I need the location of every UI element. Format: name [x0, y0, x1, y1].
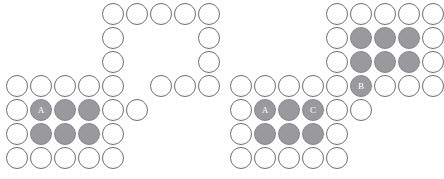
grid-cell-filled[interactable]: [374, 27, 396, 49]
grid-cell-empty[interactable]: [54, 147, 76, 169]
grid-cell-empty[interactable]: [102, 147, 124, 169]
grid-cell-empty[interactable]: [102, 3, 124, 25]
cell-label: A: [262, 106, 269, 115]
grid-cell-filled[interactable]: [254, 123, 276, 145]
grid-cell-b[interactable]: B: [350, 75, 372, 97]
grid-cell-empty[interactable]: [350, 99, 372, 121]
grid-cell-empty[interactable]: [326, 75, 348, 97]
grid-cell-empty[interactable]: [102, 27, 124, 49]
grid-cell-empty[interactable]: [54, 75, 76, 97]
grid-cell-empty[interactable]: [230, 99, 252, 121]
cell-label: B: [358, 82, 364, 91]
grid-cell-filled[interactable]: [30, 123, 52, 145]
grid-cell-filled[interactable]: [278, 123, 300, 145]
grid-cell-empty[interactable]: [326, 147, 348, 169]
grid-cell-empty[interactable]: [254, 75, 276, 97]
grid-cell-empty[interactable]: [422, 27, 444, 49]
grid-cell-filled[interactable]: [350, 51, 372, 73]
grid-cell-empty[interactable]: [78, 147, 100, 169]
grid-cell-filled[interactable]: [350, 27, 372, 49]
grid-cell-a[interactable]: A: [30, 99, 52, 121]
grid-cell-empty[interactable]: [254, 147, 276, 169]
grid-cell-empty[interactable]: [126, 3, 148, 25]
grid-cell-empty[interactable]: [326, 123, 348, 145]
grid-cell-empty[interactable]: [174, 75, 196, 97]
grid-cell-filled[interactable]: [374, 51, 396, 73]
grid-cell-empty[interactable]: [326, 3, 348, 25]
grid-cell-empty[interactable]: [230, 123, 252, 145]
grid-cell-empty[interactable]: [422, 75, 444, 97]
grid-cell-empty[interactable]: [6, 75, 28, 97]
grid-cell-empty[interactable]: [326, 99, 348, 121]
grid-cell-empty[interactable]: [198, 51, 220, 73]
grid-cell-empty[interactable]: [30, 147, 52, 169]
grid-cell-empty[interactable]: [374, 75, 396, 97]
grid-cell-empty[interactable]: [30, 75, 52, 97]
grid-cell-empty[interactable]: [6, 123, 28, 145]
grid-cell-empty[interactable]: [102, 51, 124, 73]
grid-cell-empty[interactable]: [126, 99, 148, 121]
grid-cell-empty[interactable]: [326, 51, 348, 73]
grid-cell-empty[interactable]: [398, 75, 420, 97]
grid-cell-empty[interactable]: [102, 75, 124, 97]
grid-cell-empty[interactable]: [6, 99, 28, 121]
grid-cell-empty[interactable]: [302, 147, 324, 169]
grid-cell-c[interactable]: C: [302, 99, 324, 121]
grid-cell-empty[interactable]: [350, 3, 372, 25]
grid-cell-empty[interactable]: [198, 3, 220, 25]
grid-cell-empty[interactable]: [198, 75, 220, 97]
grid-cell-filled[interactable]: [78, 123, 100, 145]
grid-cell-filled[interactable]: [54, 123, 76, 145]
grid-cell-empty[interactable]: [374, 3, 396, 25]
grid-cell-empty[interactable]: [326, 27, 348, 49]
grid-cell-empty[interactable]: [150, 75, 172, 97]
grid-cell-filled[interactable]: [302, 123, 324, 145]
grid-cell-empty[interactable]: [278, 75, 300, 97]
grid-cell-empty[interactable]: [102, 123, 124, 145]
grid-cell-filled[interactable]: [278, 99, 300, 121]
grid-cell-a[interactable]: A: [254, 99, 276, 121]
grid-cell-empty[interactable]: [198, 27, 220, 49]
grid-cell-filled[interactable]: [78, 99, 100, 121]
grid-cell-empty[interactable]: [422, 51, 444, 73]
grid-cell-empty[interactable]: [302, 75, 324, 97]
grid-cell-filled[interactable]: [398, 51, 420, 73]
grid-cell-filled[interactable]: [54, 99, 76, 121]
grid-cell-empty[interactable]: [102, 99, 124, 121]
grid-cell-empty[interactable]: [398, 3, 420, 25]
grid-cell-empty[interactable]: [78, 75, 100, 97]
grid-cell-empty[interactable]: [174, 3, 196, 25]
grid-cell-empty[interactable]: [278, 147, 300, 169]
grid-cell-empty[interactable]: [230, 75, 252, 97]
grid-cell-empty[interactable]: [422, 3, 444, 25]
grid-cell-empty[interactable]: [150, 3, 172, 25]
cell-label: A: [38, 106, 45, 115]
cell-label: C: [310, 106, 316, 115]
grid-cell-empty[interactable]: [6, 147, 28, 169]
grid-cell-empty[interactable]: [230, 147, 252, 169]
grid-cell-filled[interactable]: [398, 27, 420, 49]
